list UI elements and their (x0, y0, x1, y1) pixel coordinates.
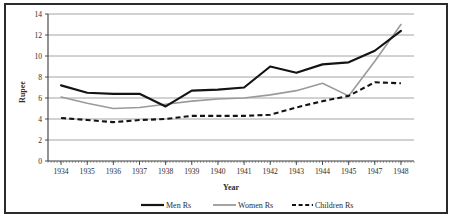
x-tick-label: 1947 (367, 167, 382, 176)
x-tick-label: 1940 (210, 167, 225, 176)
y-tick-label: 0 (38, 157, 42, 166)
y-tick-label: 8 (38, 73, 42, 82)
x-tick-label: 1936 (106, 167, 121, 176)
legend-label-children: Children Rs (315, 201, 353, 210)
x-tick-label: 1938 (158, 167, 173, 176)
y-tick-label: 2 (38, 136, 42, 145)
y-tick-label: 12 (34, 31, 42, 40)
x-tick-label: 1934 (53, 167, 68, 176)
chart-legend: Men Rs Women Rs Children Rs (141, 201, 353, 210)
line-chart: 02468101214 1934193519361937193819391940… (0, 0, 454, 221)
y-tick-label: 4 (38, 115, 42, 124)
y-axis-title: Rupee (18, 81, 27, 103)
legend-label-women: Women Rs (238, 201, 273, 210)
x-axis-ticks-group: 1934193519361937193819391940194119421943… (48, 161, 414, 176)
legend-label-men: Men Rs (166, 201, 191, 210)
x-tick-label: 1935 (80, 167, 95, 176)
plot-area-wrapper: 02468101214 1934193519361937193819391940… (0, 0, 454, 221)
x-tick-label: 1948 (393, 167, 408, 176)
chart-figure: 02468101214 1934193519361937193819391940… (0, 0, 454, 221)
x-axis-title: Year (223, 183, 239, 192)
y-tick-label: 14 (34, 10, 42, 19)
x-tick-label: 1941 (236, 167, 251, 176)
x-tick-label: 1945 (341, 167, 356, 176)
y-tick-label: 6 (38, 94, 42, 103)
x-tick-label: 1939 (184, 167, 199, 176)
y-axis-ticks-group: 02468101214 (34, 10, 48, 166)
y-tick-label: 10 (34, 52, 42, 61)
x-tick-label: 1944 (315, 167, 330, 176)
x-tick-label: 1942 (263, 167, 278, 176)
x-tick-label: 1937 (132, 167, 147, 176)
x-tick-label: 1943 (289, 167, 304, 176)
